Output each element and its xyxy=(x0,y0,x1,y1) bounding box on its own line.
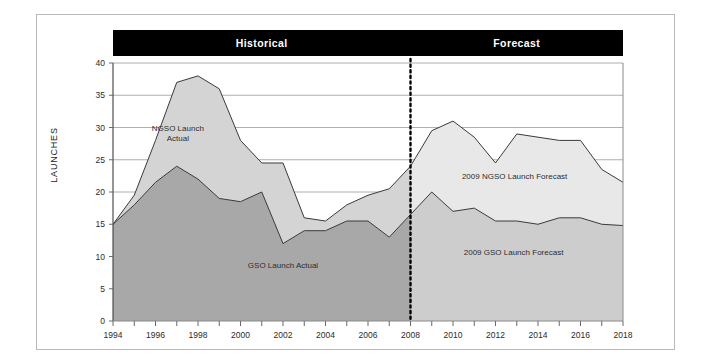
annotation-text: GSO Launch Actual xyxy=(248,261,318,270)
banner-forecast-label: Forecast xyxy=(493,37,540,49)
y-tick-label-5: 5 xyxy=(100,284,105,294)
y-axis-title: LAUNCHES xyxy=(49,95,59,215)
x-tick-label-1996: 1996 xyxy=(146,330,165,340)
annotation-text: NGSO Launch xyxy=(152,124,204,133)
y-tick-label-20: 20 xyxy=(96,187,106,197)
y-tick-label-40: 40 xyxy=(96,58,106,68)
area-chart-svg: 0510152025303540199419961998200020022004… xyxy=(0,0,710,364)
y-tick-label-10: 10 xyxy=(96,252,106,262)
x-tick-label-2008: 2008 xyxy=(401,330,420,340)
figure-root: 0510152025303540199419961998200020022004… xyxy=(0,0,710,364)
y-tick-label-25: 25 xyxy=(96,155,106,165)
x-tick-label-2000: 2000 xyxy=(231,330,250,340)
y-tick-label-35: 35 xyxy=(96,90,106,100)
annotation-ngso-forecast: 2009 NGSO Launch Forecast xyxy=(462,172,568,181)
x-tick-label-2006: 2006 xyxy=(359,330,378,340)
x-tick-label-2018: 2018 xyxy=(614,330,633,340)
annotation-gso-forecast: 2009 GSO Launch Forecast xyxy=(464,248,564,257)
banner-bar xyxy=(113,30,623,56)
banner-historical-label: Historical xyxy=(236,37,288,49)
y-tick-label-0: 0 xyxy=(100,316,105,326)
annotation-gso-actual: GSO Launch Actual xyxy=(248,261,318,270)
x-tick-label-2016: 2016 xyxy=(571,330,590,340)
x-tick-label-1998: 1998 xyxy=(189,330,208,340)
x-tick-label-2010: 2010 xyxy=(444,330,463,340)
x-tick-label-2002: 2002 xyxy=(274,330,293,340)
x-tick-label-1994: 1994 xyxy=(104,330,123,340)
annotation-text: Actual xyxy=(167,134,189,143)
x-tick-label-2012: 2012 xyxy=(486,330,505,340)
y-tick-label-30: 30 xyxy=(96,123,106,133)
y-tick-label-15: 15 xyxy=(96,219,106,229)
annotation-text: 2009 GSO Launch Forecast xyxy=(464,248,564,257)
annotation-text: 2009 NGSO Launch Forecast xyxy=(462,172,568,181)
chart-canvas: 0510152025303540199419961998200020022004… xyxy=(0,0,710,364)
x-tick-label-2014: 2014 xyxy=(529,330,548,340)
x-tick-label-2004: 2004 xyxy=(316,330,335,340)
